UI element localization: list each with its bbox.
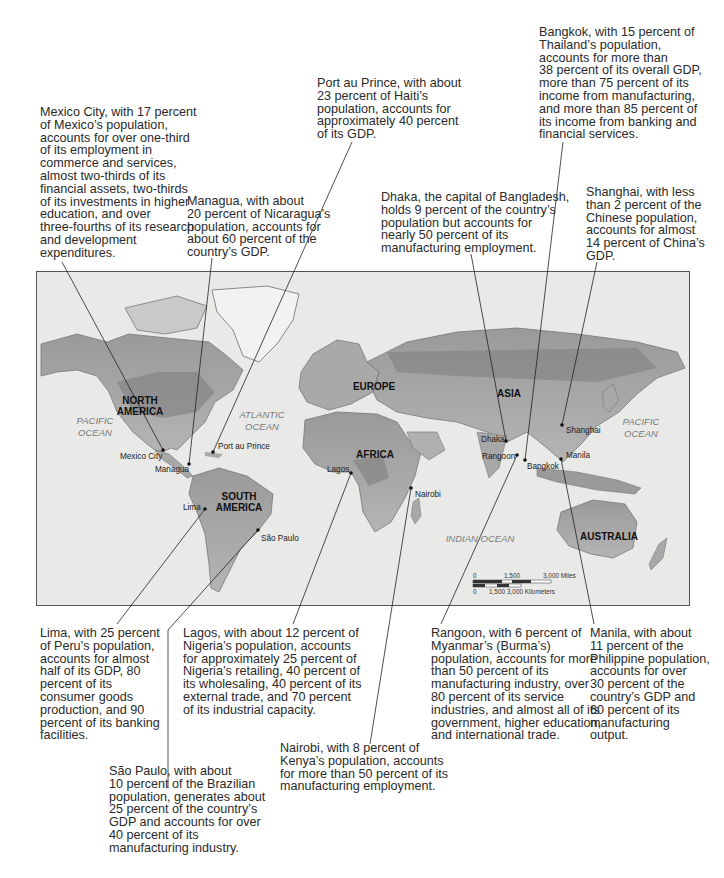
callout-mexico-city: Mexico City, with 17 percent of Mexico’s…: [40, 106, 197, 260]
world-map-graphic: [37, 272, 690, 606]
callout-shanghai: Shanghai, with less than 2 percent of th…: [586, 186, 705, 263]
callout-dhaka: Dhaka, the capital of Bangladesh, holds …: [381, 191, 569, 255]
australia-shape: [557, 500, 637, 558]
greenland-shape: [212, 286, 299, 362]
callout-sao-paulo: São Paulo, with about 10 percent of the …: [109, 765, 265, 855]
south-america-shape: [189, 468, 273, 592]
callout-nairobi: Nairobi, with 8 percent of Kenya’s popul…: [280, 742, 448, 793]
callout-managua: Managua, with about 20 percent of Nicara…: [187, 195, 330, 259]
callout-manila: Manila, with about 11 percent of the Phi…: [590, 627, 710, 742]
europe-shape: [299, 340, 379, 410]
callout-lima: Lima, with 25 percent of Peru’s populati…: [40, 627, 160, 742]
callout-bangkok: Bangkok, with 15 percent of Thailand’s p…: [539, 26, 702, 141]
callout-port-au-prince: Port au Prince, with about 23 percent of…: [317, 77, 461, 141]
callout-rangoon: Rangoon, with 6 percent of Myanmar’s (Bu…: [431, 627, 601, 742]
callout-lagos: Lagos, with about 12 percent of Nigeria’…: [183, 627, 362, 717]
world-map: [36, 271, 690, 606]
